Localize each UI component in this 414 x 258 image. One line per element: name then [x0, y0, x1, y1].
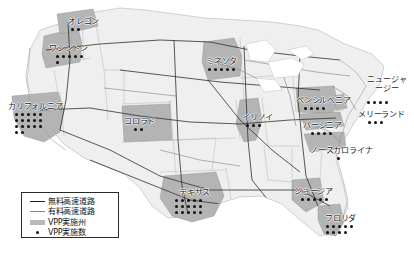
vpp-dot	[344, 225, 347, 228]
vpp-dot	[33, 113, 36, 116]
vpp-dot	[246, 124, 249, 127]
vpp-dot	[80, 55, 83, 58]
dot-cluster-california	[14, 112, 43, 135]
vpp-dot	[380, 121, 383, 124]
vpp-dot	[175, 211, 178, 214]
legend-label-toll-highway: 有料高速道路	[48, 207, 94, 216]
vpp-dot	[187, 205, 190, 208]
vpp-dot	[326, 231, 329, 234]
dot-cluster-north-carolina	[336, 156, 342, 162]
vpp-dot	[134, 128, 137, 131]
vpp-dot	[39, 119, 42, 122]
vpp-dot	[374, 121, 377, 124]
state-label-north-carolina: ノースカロライナ	[310, 146, 372, 155]
vpp-dot	[326, 225, 329, 228]
state-label-virginia: バージニア	[303, 121, 342, 130]
vpp-dot	[258, 124, 261, 127]
state-label-illinois: イリノイ	[242, 113, 273, 122]
state-label-colorado: コロラド	[124, 117, 155, 126]
vpp-dot	[220, 68, 223, 71]
gray-fill-swatch-icon	[26, 220, 48, 225]
vpp-dot	[27, 125, 30, 128]
vpp-dot	[367, 101, 370, 104]
vpp-dot	[193, 205, 196, 208]
state-label-new-jersey: ニュージャージー	[364, 76, 410, 93]
state-label-minnesota: ミネソタ	[206, 57, 237, 66]
vpp-dot	[140, 128, 143, 131]
vpp-dot	[193, 211, 196, 214]
vpp-dot	[373, 101, 376, 104]
vpp-dot	[199, 211, 202, 214]
vpp-dot	[27, 119, 30, 122]
state-label-georgia: ジョージア	[294, 187, 333, 196]
vpp-dot	[21, 131, 24, 134]
vpp-dot	[15, 113, 18, 116]
vpp-dot	[39, 113, 42, 116]
legend-label-vpp-state: VPP実施州	[48, 218, 85, 227]
vpp-dot	[323, 132, 326, 135]
vpp-dot	[208, 68, 211, 71]
vpp-dot	[181, 199, 184, 202]
vpp-dot	[379, 101, 382, 104]
vpp-dot	[344, 231, 347, 234]
dot-cluster-pennsylvania	[303, 106, 326, 112]
vpp-dot	[175, 205, 178, 208]
vpp-dot	[322, 107, 325, 110]
vpp-dot	[33, 119, 36, 122]
legend-label-free-highway: 無料高速道路	[48, 197, 94, 206]
vpp-dot	[317, 132, 320, 135]
legend-item-vpp-count: VPP実施数	[26, 228, 114, 238]
vpp-dot	[310, 107, 313, 110]
vpp-dot	[226, 68, 229, 71]
vpp-dot	[313, 198, 316, 201]
vpp-dot	[33, 125, 36, 128]
dot-cluster-maryland	[367, 120, 384, 126]
state-label-oregon: オレゴン	[68, 17, 99, 26]
vpp-dot	[175, 199, 178, 202]
toll-highway-line-icon	[26, 211, 48, 212]
vpp-dot	[350, 225, 353, 228]
vpp-dot	[304, 107, 307, 110]
dot-cluster-texas	[174, 198, 203, 215]
vpp-dot	[325, 198, 328, 201]
vpp-dot	[368, 121, 371, 124]
vpp-state-map-figure: オレゴン ワシントン カリフォルニア コロラド ミネソタ イリノイ ペンシルベニ…	[0, 0, 414, 258]
vpp-dot	[193, 199, 196, 202]
vpp-dot	[56, 55, 59, 58]
state-label-texas: テキサス	[179, 188, 210, 197]
state-label-washington: ワシントン	[49, 44, 88, 53]
vpp-dot	[301, 198, 304, 201]
dot-cluster-washington	[55, 54, 84, 66]
vpp-dot	[338, 231, 341, 234]
vpp-dot	[15, 125, 18, 128]
dot-cluster-illinois	[245, 123, 262, 129]
vpp-dot	[15, 131, 18, 134]
legend-item-vpp-state: VPP実施州	[26, 217, 114, 227]
dot-cluster-minnesota	[207, 67, 236, 73]
legend: 無料高速道路 有料高速道路 VPP実施州 VPP実施数	[21, 192, 119, 238]
state-label-maryland: メリーランド	[358, 110, 405, 119]
vpp-dot	[74, 55, 77, 58]
vpp-dot	[338, 225, 341, 228]
legend-label-vpp-count: VPP実施数	[48, 228, 85, 237]
vpp-dot	[15, 119, 18, 122]
vpp-dot	[187, 211, 190, 214]
vpp-dot	[21, 125, 24, 128]
vpp-dot	[319, 198, 322, 201]
vpp-dot	[62, 55, 65, 58]
dot-cluster-colorado	[133, 127, 145, 133]
vpp-dot	[385, 101, 388, 104]
dot-cluster-oregon	[70, 27, 82, 33]
vpp-dot	[39, 125, 42, 128]
dot-cluster-new-jersey	[366, 100, 389, 106]
vpp-dot	[27, 113, 30, 116]
vpp-dot	[232, 68, 235, 71]
vpp-dot	[337, 157, 340, 160]
vpp-dot	[181, 205, 184, 208]
vpp-dot	[68, 55, 71, 58]
vpp-dot	[332, 225, 335, 228]
black-dot-icon	[26, 231, 48, 234]
vpp-dot	[311, 132, 314, 135]
vpp-dot	[316, 107, 319, 110]
vpp-dot	[329, 132, 332, 135]
